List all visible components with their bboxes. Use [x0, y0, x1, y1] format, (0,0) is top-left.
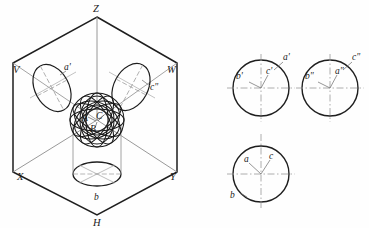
label-a-front-pictorial: a': [64, 62, 72, 72]
label-axis-x: X: [16, 171, 24, 182]
top-view-label-b: b: [230, 190, 235, 200]
projection-box-hexagon: [13, 17, 177, 215]
label-b-top-pictorial: b: [94, 192, 99, 202]
side-view-label-b: b": [305, 71, 315, 81]
h-plane-sphere-projection: [73, 162, 121, 186]
label-c-side-pictorial: c": [150, 82, 159, 92]
label-axis-z: Z: [93, 3, 99, 14]
front-view: a' b' c': [227, 52, 295, 122]
front-view-leader-b: [249, 82, 261, 88]
top-view-label-a: a: [244, 154, 249, 164]
label-plane-h: H: [92, 217, 102, 228]
side-view-leader-b: [318, 82, 330, 88]
front-view-label-c: c': [266, 66, 273, 76]
label-point-a: A: [81, 113, 88, 123]
front-view-label-a: a': [283, 52, 291, 62]
label-plane-w: W: [167, 64, 177, 75]
side-view-label-c: c": [352, 52, 361, 62]
top-view-leader-c: [261, 160, 270, 174]
front-view-label-b: b': [236, 71, 244, 81]
front-view-leader-c: [261, 75, 268, 88]
top-view-label-c: c: [269, 151, 274, 161]
label-point-b: B: [90, 124, 96, 134]
side-view-label-a: a": [335, 66, 345, 76]
label-point-c: C: [96, 111, 103, 121]
side-view-leader-a: [330, 75, 337, 88]
side-view: c" b" a": [296, 52, 364, 122]
top-view: a c b: [227, 134, 295, 208]
pictorial-view: V W H Z X Y A C B a' c" b: [13, 3, 177, 228]
technical-drawing-figure: V W H Z X Y A C B a' c" b a' b' c' c" b"…: [0, 0, 369, 228]
top-view-leader-a: [249, 163, 261, 174]
label-plane-v: V: [13, 64, 21, 75]
